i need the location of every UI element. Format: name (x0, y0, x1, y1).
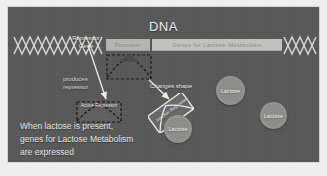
dna-helix-right-icon (282, 34, 318, 56)
page-title: DNA (8, 19, 319, 34)
lactose-genes-segment[interactable]: Genes for Lactose Metabolism (152, 39, 282, 51)
repressor-peak-icon (118, 48, 140, 56)
changes-shape-label: Changes shape (150, 83, 206, 91)
produces-repressor-label: produces repressor (63, 76, 97, 91)
lactose-molecule[interactable]: Lactose (260, 102, 287, 129)
active-repressor-label: Active Repressor (76, 103, 122, 108)
slide-canvas: DNA Promoter Genes for Lactose Metabolis… (0, 0, 327, 176)
repressor-gene-label: Repressor Gene (66, 35, 106, 50)
lactose-molecule[interactable]: Lactose (216, 76, 245, 105)
diagram-panel: DNA Promoter Genes for Lactose Metabolis… (8, 7, 319, 162)
caption-text: When lactose is present, genes for Lacto… (20, 120, 200, 159)
